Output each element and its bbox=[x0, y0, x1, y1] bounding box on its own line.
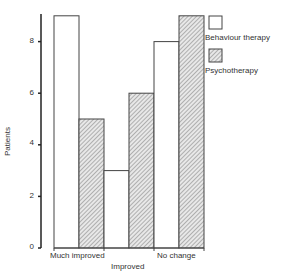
legend-label-behaviour: Behaviour therapy bbox=[205, 33, 270, 42]
y-tick-label: 8 bbox=[22, 36, 34, 45]
legend-swatch-behaviour bbox=[209, 16, 222, 29]
category-label-no-change: No change bbox=[157, 251, 196, 260]
y-tick-label: 6 bbox=[22, 88, 34, 97]
y-tick-label: 4 bbox=[22, 138, 34, 147]
bars-group bbox=[54, 16, 204, 248]
category-label-much-improved: Much improved bbox=[50, 251, 105, 260]
bar bbox=[104, 171, 129, 248]
bar bbox=[154, 42, 179, 248]
category-label-improved: Improved bbox=[111, 262, 144, 271]
bar bbox=[79, 119, 104, 248]
legend-swatch-psychotherapy bbox=[209, 49, 222, 62]
bar bbox=[129, 93, 154, 248]
legend-label-psychotherapy: Psychotherapy bbox=[205, 66, 258, 75]
y-tick-label: 0 bbox=[22, 242, 34, 251]
bar bbox=[179, 16, 204, 248]
y-axis-label: Patients bbox=[3, 127, 12, 156]
bar bbox=[54, 16, 79, 248]
y-tick-label: 2 bbox=[22, 191, 34, 200]
